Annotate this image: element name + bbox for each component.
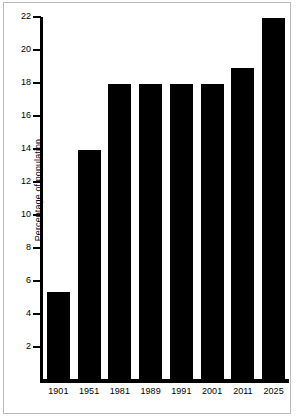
y-axis-tick-label: 20 bbox=[9, 45, 31, 54]
y-axis-tick-label: 6 bbox=[9, 276, 31, 285]
bar-group bbox=[166, 17, 197, 381]
x-axis-tick-label: 1989 bbox=[135, 386, 166, 397]
plot-area bbox=[43, 17, 289, 381]
x-axis-tick-labels: 19011951198119891991200120112025 bbox=[43, 386, 289, 402]
y-axis-tick-label: 2 bbox=[9, 342, 31, 351]
x-axis-tick-label: 1901 bbox=[43, 386, 74, 397]
x-axis-tick-label: 1991 bbox=[166, 386, 197, 397]
x-axis-tick-label: 2025 bbox=[258, 386, 289, 397]
y-axis-tick-label: 10 bbox=[9, 210, 31, 219]
y-axis-tick-label: 8 bbox=[9, 243, 31, 252]
chart-frame: Percentage of population 246810121416182… bbox=[3, 2, 291, 414]
bar-1989 bbox=[139, 84, 162, 381]
y-axis-tick-label: 4 bbox=[9, 309, 31, 318]
y-axis-tick-label: 16 bbox=[9, 111, 31, 120]
x-axis-tick-label: 2011 bbox=[228, 386, 259, 397]
y-axis-tick-label: 18 bbox=[9, 78, 31, 87]
bar-2001 bbox=[201, 84, 224, 381]
y-axis-tick-label: 14 bbox=[9, 144, 31, 153]
bar-group bbox=[197, 17, 228, 381]
x-axis-tick-label: 1981 bbox=[105, 386, 136, 397]
bar-group bbox=[135, 17, 166, 381]
y-axis-tick-labels: 246810121416182022 bbox=[4, 3, 31, 413]
y-axis-tick-label: 12 bbox=[9, 177, 31, 186]
bar-2011 bbox=[231, 68, 254, 382]
bar-1901 bbox=[47, 292, 70, 381]
bar-2025 bbox=[262, 18, 285, 381]
bar-1991 bbox=[170, 84, 193, 381]
bar-1981 bbox=[108, 84, 131, 381]
y-axis-tick-label: 22 bbox=[9, 12, 31, 21]
bar-group bbox=[74, 17, 105, 381]
bar-group bbox=[105, 17, 136, 381]
bar-group bbox=[228, 17, 259, 381]
bar-group bbox=[43, 17, 74, 381]
bar-group bbox=[258, 17, 289, 381]
x-axis-tick-label: 1951 bbox=[74, 386, 105, 397]
x-axis-tick-label: 2001 bbox=[197, 386, 228, 397]
bar-1951 bbox=[78, 150, 101, 381]
